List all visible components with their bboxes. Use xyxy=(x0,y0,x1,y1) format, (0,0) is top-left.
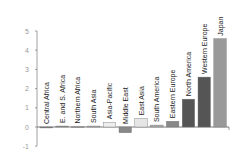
y-tick-label: 1 xyxy=(25,104,29,111)
bar-label: Western Europe xyxy=(201,24,209,75)
bar-label: Japan xyxy=(217,17,225,36)
y-tick-label: 5 xyxy=(25,28,29,35)
bar-label: South America xyxy=(153,76,160,122)
bar-label: Middle East xyxy=(122,87,129,124)
bar-label: Eastern Europe xyxy=(169,69,177,118)
bar xyxy=(214,39,227,127)
y-tick-label: 2 xyxy=(25,85,29,92)
y-tick-label: 4 xyxy=(25,47,29,54)
bar xyxy=(151,125,164,127)
y-tick-label: 0 xyxy=(25,124,29,131)
bar xyxy=(166,121,179,127)
bar-label: Asia-Pacific xyxy=(106,82,113,119)
bar xyxy=(135,118,148,127)
y-tick-label: -1 xyxy=(23,143,29,150)
bar xyxy=(40,127,53,128)
bar-chart: -1012345Central AfricaE. and S. AfricaNo… xyxy=(0,0,241,162)
bar-label: North America xyxy=(185,52,192,96)
bar-label: Northern Africa xyxy=(74,77,81,124)
bar xyxy=(119,127,132,133)
bar-label: South Asia xyxy=(90,89,97,123)
bar xyxy=(103,122,116,127)
y-tick-label: 3 xyxy=(25,66,29,73)
bar-label: Central Africa xyxy=(43,82,50,124)
bar xyxy=(56,126,69,127)
bar xyxy=(72,127,85,128)
bar xyxy=(182,99,195,127)
bar-label: E. and S. Africa xyxy=(59,75,66,123)
bar-label: East Asia xyxy=(138,86,145,115)
bar xyxy=(198,77,211,127)
bar xyxy=(87,126,100,127)
